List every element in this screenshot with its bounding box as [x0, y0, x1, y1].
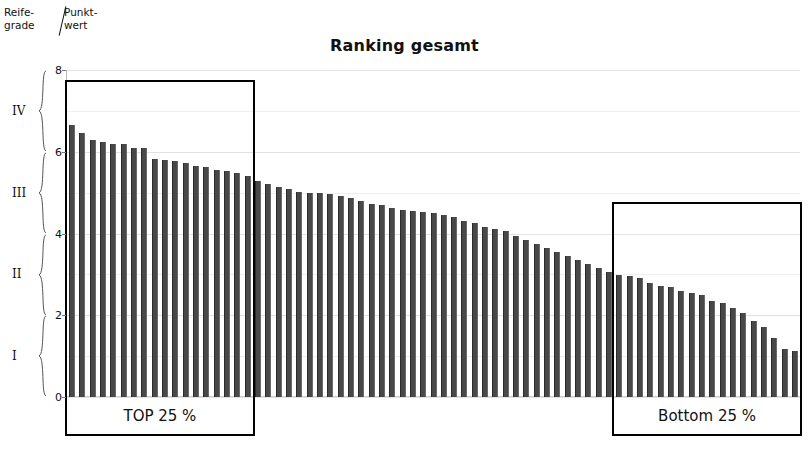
bar: [400, 210, 406, 397]
bar: [255, 181, 261, 397]
chart-title: Ranking gesamt: [0, 36, 809, 55]
bar: [544, 248, 550, 397]
bar: [348, 198, 354, 397]
highlight-box-top-quartile: [65, 80, 255, 436]
bar: [492, 229, 498, 397]
bar: [523, 240, 529, 397]
bar: [503, 231, 509, 397]
bar: [420, 212, 426, 397]
bar: [307, 193, 313, 397]
maturity-grade-label-iv: IV: [12, 104, 25, 118]
maturity-grade-brace-icon: [38, 234, 47, 316]
bar: [369, 204, 375, 397]
maturity-grade-label-ii: II: [12, 267, 21, 281]
maturity-grade-brace-icon: [38, 70, 47, 152]
bar: [472, 223, 478, 397]
y-axis-tick-mark: [62, 234, 66, 235]
bar: [461, 221, 467, 397]
y-axis-tick-mark: [62, 70, 66, 71]
bar: [596, 268, 602, 397]
bar: [513, 236, 519, 397]
bar: [379, 205, 385, 397]
highlight-box-bottom-quartile: [612, 202, 802, 436]
highlight-label-bottom-quartile: Bottom 25 %: [612, 407, 802, 425]
maturity-grade-brace-icon: [38, 152, 47, 234]
bar: [327, 194, 333, 397]
maturity-grade-label-i: I: [12, 349, 17, 363]
bar: [276, 187, 282, 398]
bar: [296, 192, 302, 397]
bar: [441, 215, 447, 397]
chart-root: Reife- grade Punkt- wert Ranking gesamt …: [0, 0, 809, 449]
bar: [389, 208, 395, 397]
point-value-axis-caption: Punkt- wert: [64, 6, 97, 31]
bar: [606, 272, 612, 397]
bar: [575, 260, 581, 397]
bar: [338, 196, 344, 397]
bar: [451, 217, 457, 397]
bar: [358, 201, 364, 397]
y-axis-tick-mark: [62, 315, 66, 316]
maturity-grade-axis-caption: Reife- grade: [4, 6, 35, 31]
bar: [265, 184, 271, 397]
bar: [585, 264, 591, 397]
bar: [534, 244, 540, 397]
bar: [286, 189, 292, 397]
y-axis-tick-mark: [62, 397, 66, 398]
y-axis-tick-mark: [62, 152, 66, 153]
bar: [565, 256, 571, 397]
bar: [431, 213, 437, 397]
maturity-grade-brace-icon: [38, 315, 47, 397]
maturity-grade-brackets: IVIIIIII: [8, 70, 64, 397]
bar: [554, 252, 560, 397]
bar: [410, 211, 416, 397]
highlight-label-top-quartile: TOP 25 %: [65, 407, 255, 425]
bar: [317, 193, 323, 397]
bar: [482, 227, 488, 397]
maturity-grade-label-iii: III: [12, 186, 26, 200]
